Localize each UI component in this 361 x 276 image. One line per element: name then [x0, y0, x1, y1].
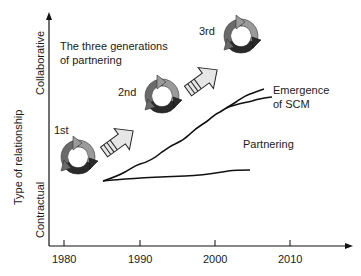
generation-label-2nd: 2nd: [118, 86, 136, 99]
x-tick-1980: 1980: [52, 253, 76, 266]
cycle-arrows-icon-3rd: [224, 15, 261, 53]
generation-label-1st: 1st: [54, 124, 69, 137]
y-axis-bottom-label: Contractual: [34, 182, 46, 238]
x-tick-2010: 2010: [278, 253, 302, 266]
diagram-canvas: [0, 0, 361, 276]
y-axis: [46, 12, 52, 246]
partnering-label: Partnering: [243, 138, 294, 151]
scm-label-line-2: of SCM: [273, 98, 310, 111]
cycle-arrows-icon-1st: [61, 136, 98, 174]
y-axis-top-label: Collaborative: [34, 31, 46, 95]
scm-label-line-1: Emergence: [273, 84, 329, 97]
cycle-arrows-icon-2nd: [145, 75, 182, 113]
progress-arrow-1: [96, 120, 140, 162]
progress-arrow-2: [180, 59, 224, 101]
x-axis: [49, 240, 353, 249]
diagram-title-line-2: of partnering: [60, 54, 122, 67]
diagram-title-line-1: The three generations: [60, 40, 168, 53]
generation-label-3rd: 3rd: [199, 25, 215, 38]
y-axis-title: Type of relationship: [12, 110, 24, 205]
x-tick-2000: 2000: [203, 253, 227, 266]
x-tick-1990: 1990: [128, 253, 152, 266]
scm-branch: [226, 97, 272, 108]
